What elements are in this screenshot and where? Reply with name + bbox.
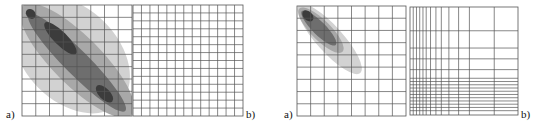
figure-left-label-a: a) bbox=[6, 108, 15, 120]
figure-left-label-b: b) bbox=[246, 108, 255, 120]
figure-right-panel-a bbox=[289, 0, 406, 116]
figure-left-panel-b bbox=[133, 5, 243, 116]
figure-right-panel-b bbox=[410, 7, 518, 115]
shading-group bbox=[289, 0, 370, 82]
figure-right-label-a: a) bbox=[284, 108, 293, 120]
figure-left-panel-a bbox=[0, 0, 153, 132]
figure-canvas bbox=[0, 0, 539, 132]
figure-right-label-b: b) bbox=[521, 108, 530, 120]
shading-group bbox=[0, 0, 153, 132]
